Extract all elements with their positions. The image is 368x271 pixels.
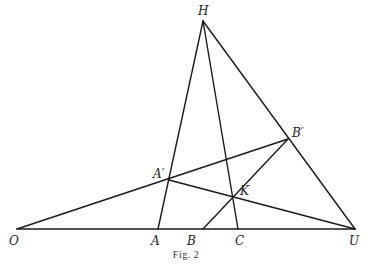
point-label-A_prime: A′ [152,167,165,181]
segment-A_prime-U [169,180,355,229]
point-label-C: C [235,234,244,248]
geometry-figure: HOABCUA′B′K Fig. 2 [0,0,368,271]
figure-segments [17,21,355,229]
point-label-K: K [239,184,250,198]
segment-H-A [158,21,203,229]
segment-H-U [203,21,355,229]
point-label-O: O [9,234,19,248]
point-label-H: H [197,4,209,18]
point-label-U: U [349,234,360,248]
point-label-B: B [186,234,196,248]
point-label-A: A [150,234,160,248]
figure-labels: HOABCUA′B′K [9,4,360,248]
figure-caption: Fig. 2 [173,249,199,260]
point-label-B_prime: B′ [291,126,304,140]
